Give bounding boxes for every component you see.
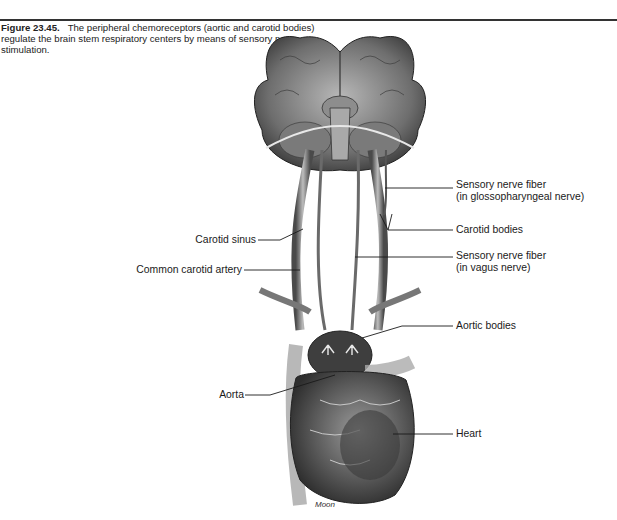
label-line: (in vagus nerve) bbox=[456, 262, 546, 274]
label-aorta: Aorta bbox=[219, 389, 244, 401]
label-carotid-bodies: Carotid bodies bbox=[456, 224, 523, 236]
label-heart: Heart bbox=[456, 428, 481, 440]
label-line: Sensory nerve fiber bbox=[456, 179, 584, 191]
label-line: Sensory nerve fiber bbox=[456, 250, 546, 262]
label-carotid-sinus: Carotid sinus bbox=[195, 234, 256, 246]
label-line: (in glossopharyngeal nerve) bbox=[456, 191, 584, 203]
brain bbox=[254, 36, 425, 170]
heart bbox=[290, 372, 414, 504]
label-common-carotid-artery: Common carotid artery bbox=[136, 264, 242, 276]
illustrator-credit: Moon bbox=[315, 500, 335, 509]
label-aortic-bodies: Aortic bodies bbox=[456, 320, 516, 332]
neck-vessels-and-nerves bbox=[260, 150, 420, 330]
label-sensory-nerve-glossopharyngeal: Sensory nerve fiber (in glossopharyngeal… bbox=[456, 179, 584, 202]
label-sensory-nerve-vagus: Sensory nerve fiber (in vagus nerve) bbox=[456, 250, 546, 273]
